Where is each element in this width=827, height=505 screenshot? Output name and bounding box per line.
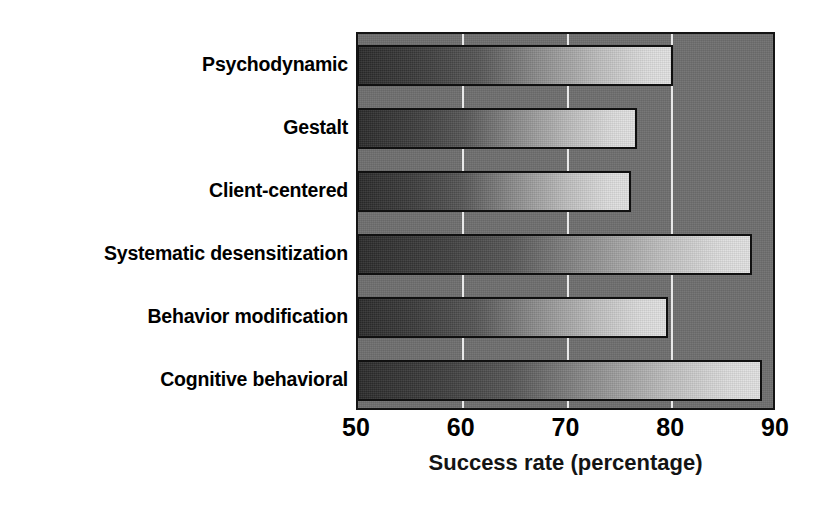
y-axis-label-psychodynamic: Psychodynamic <box>0 54 348 74</box>
y-axis-label-client-centered: Client-centered <box>0 180 348 200</box>
y-axis-category-labels: Psychodynamic Gestalt Client-centered Sy… <box>0 32 348 410</box>
bar-behavior-modification <box>357 297 668 338</box>
gridline-70 <box>567 34 569 408</box>
bar-cognitive-behavioral <box>357 360 762 401</box>
y-axis-label-cognitive-behavioral: Cognitive behavioral <box>0 369 348 389</box>
bar-client-centered <box>357 171 631 212</box>
gridline-60 <box>462 34 464 408</box>
x-tick-label-90: 90 <box>761 412 789 442</box>
plot-area <box>356 32 775 410</box>
x-tick-label-70: 70 <box>552 412 580 442</box>
x-axis-title: Success rate (percentage) <box>356 450 775 476</box>
x-tick-label-60: 60 <box>447 412 475 442</box>
gridline-80 <box>671 34 673 408</box>
chart-figure: Psychodynamic Gestalt Client-centered Sy… <box>0 0 827 505</box>
y-axis-label-systematic-desensitization: Systematic desensitization <box>0 243 348 263</box>
y-axis-label-gestalt: Gestalt <box>0 117 348 137</box>
x-tick-label-80: 80 <box>656 412 684 442</box>
bar-psychodynamic <box>357 45 673 86</box>
y-axis-label-behavior-modification: Behavior modification <box>0 306 348 326</box>
bar-systematic-desensitization <box>357 234 752 275</box>
x-axis-tick-labels: 5060708090 <box>356 412 775 446</box>
x-tick-label-50: 50 <box>342 412 370 442</box>
plot-background-texture <box>358 34 773 408</box>
bar-gestalt <box>357 108 637 149</box>
